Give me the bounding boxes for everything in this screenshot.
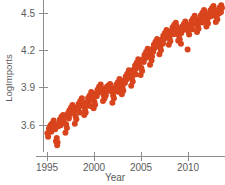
data-point (190, 26, 196, 32)
x-tick-label: 2010 (177, 162, 200, 173)
data-point (171, 31, 177, 37)
data-point (130, 78, 136, 84)
data-point (64, 125, 70, 131)
data-point (160, 41, 166, 47)
x-tick-label: 1995 (36, 162, 59, 173)
data-point (73, 116, 79, 122)
y-tick-label: 3.6 (21, 120, 35, 131)
data-point (205, 20, 211, 26)
chart-canvas: 3.63.94.24.5 1995200020052010 Year LogIm… (0, 0, 225, 185)
data-point (214, 16, 220, 22)
data-points-group (44, 2, 225, 148)
data-point (218, 9, 224, 15)
data-point (185, 47, 191, 53)
data-point (209, 13, 215, 19)
data-point (199, 19, 205, 25)
y-tick-label: 3.9 (21, 82, 35, 93)
data-point (103, 92, 109, 98)
y-axis-title: LogImports (3, 54, 14, 102)
y-tick-label: 4.5 (21, 8, 35, 19)
y-tick-label: 4.2 (21, 45, 35, 56)
data-point (83, 110, 89, 116)
data-point (115, 89, 121, 95)
data-point (186, 31, 192, 37)
data-point (178, 41, 184, 47)
data-point (66, 116, 72, 122)
x-axis-title: Year (105, 172, 126, 183)
data-point (120, 88, 126, 94)
data-point (167, 38, 173, 44)
data-point (111, 95, 117, 101)
x-tick-group: 1995200020052010 (36, 152, 200, 173)
data-point (54, 142, 60, 148)
data-point (139, 68, 145, 74)
data-point (92, 102, 98, 108)
x-tick-label: 2005 (130, 162, 153, 173)
x-tick-label: 2000 (83, 162, 106, 173)
data-point (149, 54, 155, 60)
scatter-chart: 3.63.94.24.5 1995200020052010 Year LogIm… (0, 0, 225, 185)
data-point (133, 71, 139, 77)
data-point (45, 134, 51, 140)
data-point (77, 110, 83, 116)
data-point (87, 103, 93, 109)
data-point (196, 26, 202, 32)
data-point (158, 47, 164, 53)
